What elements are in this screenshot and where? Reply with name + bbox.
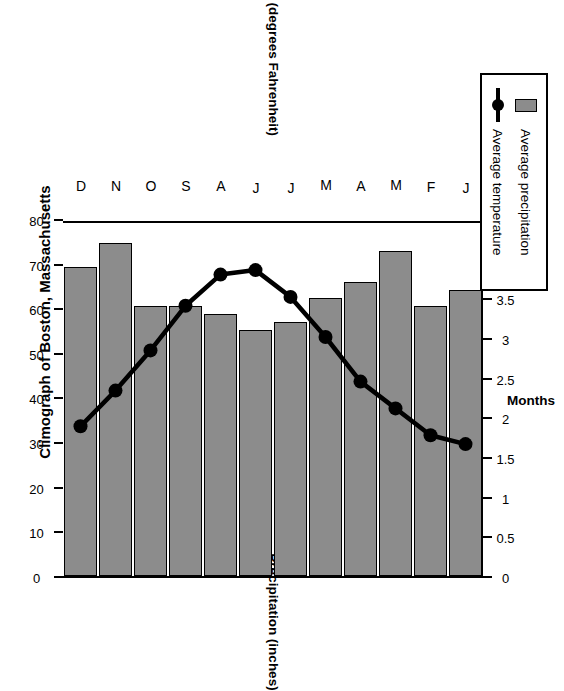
month-label-J-5: J [287, 181, 294, 195]
bar-swatch-icon [515, 85, 537, 125]
precipitation-tick-label-1.5: 1.5 [496, 453, 514, 466]
temperature-tick-0 [54, 576, 63, 578]
bar-S-8 [169, 306, 202, 576]
bar-M-4 [309, 298, 342, 576]
temperature-tick-label-30: 30 [29, 438, 43, 451]
precipitation-tick-2 [483, 417, 492, 419]
legend-label-precipitation: Average precipitation [519, 129, 534, 256]
month-label-N-10: N [110, 179, 120, 193]
precipitation-tick-0 [483, 576, 492, 578]
month-label-M-4: M [320, 178, 332, 192]
months-axis-title: Months [507, 393, 555, 408]
month-label-S-8: S [181, 179, 190, 193]
bar-J-5 [274, 322, 307, 576]
precipitation-tick-label-2.5: 2.5 [496, 373, 514, 386]
precipitation-tick-label-2: 2 [502, 413, 509, 426]
temperature-tick-60 [54, 308, 63, 310]
temperature-tick-label-50: 50 [29, 348, 43, 361]
precipitation-tick-label-3.5: 3.5 [496, 294, 514, 307]
precipitation-tick-label-0.5: 0.5 [496, 532, 514, 545]
bar-D-11 [64, 267, 97, 576]
precipitation-tick-2.5 [483, 378, 492, 380]
bar-N-10 [99, 243, 132, 576]
month-label-J-6: J [252, 181, 259, 195]
legend: Average precipitation Average temperatur… [480, 73, 548, 291]
precipitation-tick-3.5 [483, 298, 492, 300]
month-label-J-0: J [462, 181, 469, 195]
temperature-tick-label-60: 60 [29, 304, 43, 317]
bar-A-7 [204, 314, 237, 576]
bar-J-0 [449, 290, 482, 576]
plot-area: 00.511.522.533.544.5 01020304050607080 J… [63, 221, 483, 578]
precipitation-tick-1 [483, 497, 492, 499]
bar-F-1 [414, 306, 447, 576]
legend-label-temperature: Average temperature [491, 129, 506, 256]
month-label-F-1: F [426, 180, 435, 194]
line-marker-icon [487, 85, 509, 125]
temperature-tick-70 [54, 264, 63, 266]
legend-item-precipitation: Average precipitation [514, 85, 538, 279]
bar-O-9 [134, 306, 167, 576]
bar-A-3 [344, 282, 377, 576]
temperature-tick-80 [54, 219, 63, 221]
month-label-M-2: M [390, 178, 402, 192]
bar-J-6 [239, 330, 272, 576]
legend-item-temperature: Average temperature [486, 85, 510, 279]
month-label-D-11: D [75, 179, 85, 193]
month-label-A-3: A [356, 179, 365, 193]
temperature-tick-label-40: 40 [29, 393, 43, 406]
month-label-A-7: A [216, 179, 225, 193]
precipitation-tick-0.5 [483, 536, 492, 538]
month-label-O-9: O [145, 179, 156, 193]
temperature-tick-20 [54, 487, 63, 489]
precipitation-tick-label-1: 1 [502, 492, 509, 505]
temperature-axis-title: Temperature (degrees Fahrenheit) [266, 0, 281, 136]
temperature-tick-label-80: 80 [29, 215, 43, 228]
precipitation-tick-1.5 [483, 457, 492, 459]
precipitation-tick-label-3: 3 [502, 334, 509, 347]
precipitation-tick-3 [483, 338, 492, 340]
temperature-tick-label-0: 0 [33, 572, 40, 585]
temperature-tick-30 [54, 442, 63, 444]
precipitation-tick-label-0: 0 [502, 572, 509, 585]
temperature-tick-50 [54, 353, 63, 355]
temperature-tick-label-20: 20 [29, 482, 43, 495]
temperature-tick-10 [54, 531, 63, 533]
bar-M-2 [379, 251, 412, 576]
temperature-tick-40 [54, 398, 63, 400]
temperature-tick-label-70: 70 [29, 259, 43, 272]
temperature-tick-label-10: 10 [29, 527, 43, 540]
precipitation-bars [63, 221, 483, 578]
